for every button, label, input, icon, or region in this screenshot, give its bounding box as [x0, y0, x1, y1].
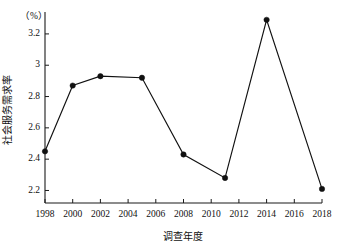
y-axis-tick-label: 3 [35, 59, 40, 69]
data-point-marker: 2011: 2.28 [222, 175, 227, 180]
x-axis-tick-label: 2014 [257, 209, 276, 219]
y-axis-tick-label: 2.8 [28, 91, 40, 101]
x-axis-tick-label: 2004 [119, 209, 138, 219]
x-axis-tick-label: 2008 [174, 209, 193, 219]
data-point-marker: 2008: 2.43 [181, 152, 186, 157]
data-point-marker: 1998: 2.45 [42, 149, 47, 154]
y-axis-tick-label: 3.2 [28, 28, 40, 38]
data-point-marker: 2002: 2.93 [98, 73, 103, 78]
data-point-marker: 2005: 2.92 [139, 75, 144, 80]
data-point-marker: 2018: 2.21 [319, 186, 324, 191]
chart-container: （%） 2.22.42.62.833.2 1998200020022004200… [0, 0, 340, 247]
social-service-demand-line-chart: （%） 2.22.42.62.833.2 1998200020022004200… [0, 0, 340, 247]
x-axis-tick-label: 2000 [63, 209, 82, 219]
y-axis-tick-label: 2.4 [28, 153, 40, 163]
x-axis-tick-label: 2018 [313, 209, 332, 219]
y-axis-unit-label: （%） [20, 10, 48, 21]
x-axis-tick-label: 1998 [36, 209, 55, 219]
data-point-marker: 2014: 3.29 [264, 17, 269, 22]
data-point-marker: 2000: 2.87 [70, 83, 75, 88]
x-axis-tick-label: 2012 [229, 209, 248, 219]
y-axis-tick-label: 2.2 [28, 185, 40, 195]
x-axis-tick-label: 2010 [202, 209, 221, 219]
x-axis-tick-label: 2006 [146, 209, 165, 219]
x-axis-tick-label: 2016 [285, 209, 304, 219]
y-axis-title: 社会服务需求率 [1, 75, 13, 145]
y-axis-tick-label: 2.6 [28, 122, 40, 132]
x-axis-tick-label: 2002 [91, 209, 110, 219]
x-axis-title: 调查年度 [163, 230, 203, 242]
